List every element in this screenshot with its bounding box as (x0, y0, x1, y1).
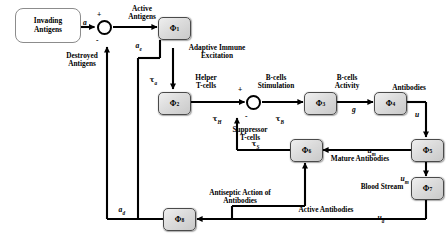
signal-tau-s: τS (244, 130, 259, 159)
signal-u-m-right: um (393, 165, 409, 194)
phi3-symbol: Φ (316, 99, 323, 108)
phi5-subscript: 5 (429, 148, 432, 154)
label-helper-tcells: HelperT-cells (183, 74, 229, 90)
signal-u-m-left-sub: m (372, 151, 376, 157)
signal-tau-b: τB (268, 105, 284, 134)
signal-u-a-sub: a (382, 218, 385, 224)
phi2-subscript: 2 (176, 101, 179, 107)
signal-u-a: ua (370, 204, 384, 233)
phi4-symbol: Φ (386, 99, 393, 108)
signal-u: u (415, 110, 419, 119)
block-phi3[interactable]: Φ3 (304, 92, 337, 115)
sign-sum1-plus: + (97, 10, 101, 19)
signal-a-e: ae (128, 32, 142, 61)
phi6-symbol: Φ (302, 146, 309, 155)
phi2-symbol: Φ (170, 99, 177, 108)
phi7-symbol: Φ (423, 184, 430, 193)
block-phi2[interactable]: Φ2 (158, 92, 191, 115)
phi3-subscript: 3 (322, 101, 325, 107)
signal-g: g (352, 105, 356, 114)
signal-u-m-right-sub: m (405, 179, 409, 185)
phi5-symbol: Φ (423, 146, 430, 155)
label-active-antibodies: Active Antibodies (290, 206, 362, 214)
diagram-canvas: Invading Antigens Φ1 Φ2 Φ3 Φ4 Φ5 Φ6 Φ7 Φ… (0, 0, 446, 245)
phi1-symbol: Φ (170, 24, 177, 33)
signal-tau-h-sub: H (217, 119, 221, 125)
label-adaptive-immune-excitation: Adaptive ImmuneExcitation (172, 44, 262, 60)
block-phi5[interactable]: Φ5 (411, 139, 444, 162)
source-line-2: Antigens (34, 26, 62, 35)
signal-a-e-sub: e (139, 46, 141, 52)
signal-a-d-sub: d (122, 210, 125, 216)
summing-junction-1[interactable] (97, 20, 112, 35)
sign-sum2-minus: - (245, 112, 248, 121)
label-destroyed-antigens: DestroyedAntigens (45, 52, 119, 68)
phi8-symbol: Φ (175, 215, 182, 224)
block-phi7[interactable]: Φ7 (411, 177, 444, 200)
label-antibodies: Antibodies (378, 84, 440, 92)
sign-sum2-plus: + (238, 85, 242, 94)
signal-a: a (83, 18, 87, 27)
signal-u-m-left: um (360, 137, 376, 166)
phi1-subscript: 1 (176, 26, 179, 32)
summing-junction-2[interactable] (246, 95, 261, 110)
label-bcells-activity: B-cellsActivity (320, 74, 374, 90)
block-phi8[interactable]: Φ8 (163, 208, 196, 231)
signal-tau-h: τH (205, 105, 221, 134)
signal-a-d: ad (111, 196, 125, 225)
phi7-subscript: 7 (429, 186, 432, 192)
block-phi6[interactable]: Φ6 (290, 139, 323, 162)
signal-tau-s-sub: S (256, 144, 259, 150)
phi4-subscript: 4 (392, 101, 395, 107)
sign-sum1-minus: - (96, 36, 99, 45)
invading-antigens-source[interactable]: Invading Antigens (15, 8, 81, 43)
label-bcells-stimulation: B-cellsStimulation (244, 74, 308, 90)
block-phi4[interactable]: Φ4 (374, 92, 407, 115)
label-antiseptic-action: Antiseptic Action ofAntibodies (185, 189, 295, 205)
phi8-subscript: 8 (181, 217, 184, 223)
signal-tau-a-sub: a (154, 80, 157, 86)
signal-tau-b-sub: B (280, 119, 283, 125)
phi6-subscript: 6 (308, 148, 311, 154)
label-active-antigens: ActiveAntigens (112, 5, 172, 21)
signal-tau-a: τa (142, 66, 157, 95)
